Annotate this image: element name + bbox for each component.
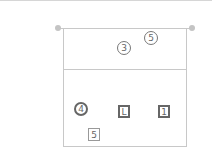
player-5: 5 <box>88 128 100 141</box>
player-4: 4 <box>74 102 88 116</box>
player-1: 1 <box>158 105 170 118</box>
attack-line <box>63 69 187 70</box>
net-post-left-icon <box>55 25 61 31</box>
top-divider <box>0 0 212 1</box>
player-libero: L <box>118 105 130 118</box>
net-post-right-icon <box>189 25 195 31</box>
player-label: 1 <box>161 107 167 117</box>
player-label: L <box>121 107 126 117</box>
player-label: 5 <box>91 130 97 140</box>
player-label: 5 <box>148 33 154 43</box>
player-label: 4 <box>78 104 84 114</box>
player-label: 3 <box>121 43 127 53</box>
net-line <box>58 28 192 29</box>
opponent-player-5: 5 <box>144 31 158 45</box>
opponent-player-3: 3 <box>117 41 131 55</box>
